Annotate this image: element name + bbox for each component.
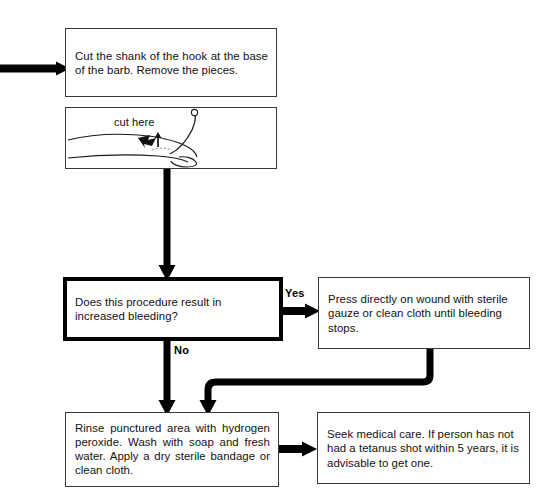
seek-care-step[interactable]: Seek medical care. If person has not had…: [317, 412, 530, 484]
decision-no-arrow: [159, 340, 176, 416]
cut-here-label: cut here: [114, 116, 154, 128]
cut-shank-text: Cut the shank of the hook at the base of…: [75, 48, 268, 77]
bleeding-decision-text: Does this procedure result in increased …: [75, 295, 273, 324]
press-wound-step[interactable]: Press directly on wound with sterile gau…: [318, 277, 530, 349]
cut-shank-step[interactable]: Cut the shank of the hook at the base of…: [65, 28, 277, 97]
press-wound-text: Press directly on wound with sterile gau…: [328, 292, 521, 335]
seek-care-text: Seek medical care. If person has not had…: [327, 427, 521, 470]
rinse-to-seek-care-arrow: [279, 442, 317, 457]
press-to-rinse-connector: [200, 349, 431, 416]
flowchart-page: Cut the shank of the hook at the base of…: [0, 0, 549, 491]
decision-yes-arrow: [281, 304, 320, 319]
edge-label-no: No: [174, 344, 189, 356]
rinse-area-text: Rinse punctured area with hydrogen perox…: [75, 421, 270, 478]
bleeding-decision[interactable]: Does this procedure result in increased …: [63, 277, 283, 341]
hook-illustration: cut here: [65, 107, 277, 169]
rinse-area-step[interactable]: Rinse punctured area with hydrogen perox…: [65, 412, 279, 487]
entry-arrow: [0, 62, 70, 76]
illustration-to-decision-arrow: [159, 168, 176, 281]
hook-illustration-drawing: [66, 108, 276, 168]
edge-label-yes: Yes: [285, 287, 305, 299]
